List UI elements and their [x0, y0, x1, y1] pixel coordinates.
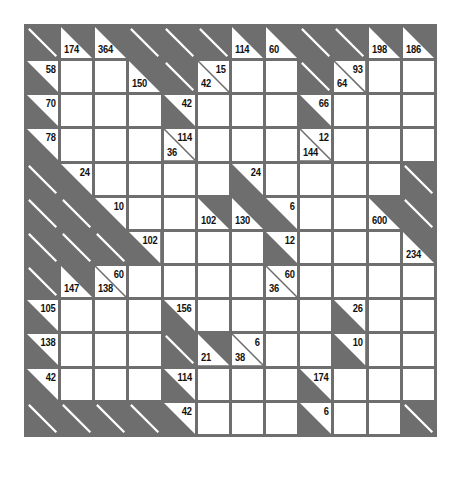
entry-cell[interactable]	[300, 164, 331, 195]
entry-cell[interactable]	[266, 61, 297, 92]
entry-cell[interactable]	[129, 129, 160, 160]
entry-cell[interactable]	[266, 300, 297, 331]
entry-cell[interactable]	[198, 129, 229, 160]
entry-cell[interactable]	[232, 369, 263, 400]
entry-cell[interactable]	[198, 266, 229, 297]
entry-cell[interactable]	[266, 164, 297, 195]
clue-cell: 156	[164, 300, 195, 331]
entry-cell[interactable]	[129, 198, 160, 229]
entry-cell[interactable]	[198, 164, 229, 195]
entry-cell[interactable]	[129, 266, 160, 297]
entry-cell[interactable]	[129, 95, 160, 126]
clue-cell: 60138	[95, 266, 126, 297]
entry-cell[interactable]	[300, 334, 331, 365]
entry-cell[interactable]	[266, 369, 297, 400]
entry-cell[interactable]	[334, 232, 365, 263]
entry-cell[interactable]	[369, 232, 400, 263]
clue-cell: 42	[164, 403, 195, 434]
entry-cell[interactable]	[369, 164, 400, 195]
entry-cell[interactable]	[334, 95, 365, 126]
entry-cell[interactable]	[232, 61, 263, 92]
entry-cell[interactable]	[300, 300, 331, 331]
clue-cell: 130	[232, 198, 263, 229]
entry-cell[interactable]	[95, 95, 126, 126]
entry-cell[interactable]	[61, 95, 92, 126]
entry-cell[interactable]	[300, 266, 331, 297]
entry-cell[interactable]	[129, 300, 160, 331]
diagonal-stripe-icon	[27, 232, 58, 263]
entry-cell[interactable]	[61, 369, 92, 400]
entry-cell[interactable]	[334, 403, 365, 434]
entry-cell[interactable]	[369, 129, 400, 160]
entry-cell[interactable]	[334, 198, 365, 229]
entry-cell[interactable]	[369, 403, 400, 434]
entry-cell[interactable]	[334, 129, 365, 160]
entry-cell[interactable]	[129, 164, 160, 195]
entry-cell[interactable]	[232, 266, 263, 297]
clue-cell: 174	[300, 369, 331, 400]
entry-cell[interactable]	[61, 334, 92, 365]
entry-cell[interactable]	[266, 129, 297, 160]
across-clue-sum: 6	[289, 201, 294, 212]
entry-cell[interactable]	[369, 95, 400, 126]
entry-cell[interactable]	[164, 266, 195, 297]
entry-cell[interactable]	[403, 61, 434, 92]
entry-cell[interactable]	[369, 266, 400, 297]
entry-cell[interactable]	[334, 266, 365, 297]
across-clue-sum: 10	[353, 337, 363, 348]
entry-cell[interactable]	[403, 300, 434, 331]
entry-cell[interactable]	[129, 334, 160, 365]
entry-cell[interactable]	[95, 334, 126, 365]
clue-cell: 60	[266, 27, 297, 58]
entry-cell[interactable]	[369, 300, 400, 331]
entry-cell[interactable]	[232, 95, 263, 126]
entry-cell[interactable]	[369, 61, 400, 92]
entry-cell[interactable]	[232, 300, 263, 331]
entry-cell[interactable]	[403, 95, 434, 126]
entry-cell[interactable]	[95, 300, 126, 331]
blocked-cell	[403, 198, 434, 229]
entry-cell[interactable]	[266, 95, 297, 126]
entry-cell[interactable]	[95, 369, 126, 400]
entry-cell[interactable]	[369, 369, 400, 400]
entry-cell[interactable]	[61, 61, 92, 92]
entry-cell[interactable]	[266, 403, 297, 434]
down-clue-sum: 21	[201, 352, 211, 363]
clue-cell: 174	[61, 27, 92, 58]
entry-cell[interactable]	[300, 198, 331, 229]
entry-cell[interactable]	[129, 369, 160, 400]
entry-cell[interactable]	[198, 232, 229, 263]
entry-cell[interactable]	[61, 300, 92, 331]
blocked-cell	[27, 27, 58, 58]
blocked-cell	[27, 198, 58, 229]
entry-cell[interactable]	[198, 369, 229, 400]
entry-cell[interactable]	[403, 129, 434, 160]
across-clue-sum: 102	[143, 235, 158, 246]
entry-cell[interactable]	[164, 198, 195, 229]
entry-cell[interactable]	[198, 95, 229, 126]
entry-cell[interactable]	[232, 129, 263, 160]
entry-cell[interactable]	[369, 334, 400, 365]
entry-cell[interactable]	[334, 164, 365, 195]
entry-cell[interactable]	[95, 129, 126, 160]
entry-cell[interactable]	[95, 164, 126, 195]
entry-cell[interactable]	[403, 266, 434, 297]
entry-cell[interactable]	[403, 334, 434, 365]
across-clue-sum: 93	[353, 64, 363, 75]
entry-cell[interactable]	[266, 334, 297, 365]
entry-cell[interactable]	[403, 369, 434, 400]
entry-cell[interactable]	[95, 61, 126, 92]
diagonal-stripe-icon	[95, 232, 126, 263]
entry-cell[interactable]	[232, 403, 263, 434]
entry-cell[interactable]	[300, 232, 331, 263]
entry-cell[interactable]	[334, 369, 365, 400]
clue-cell: 114	[232, 27, 263, 58]
entry-cell[interactable]	[198, 300, 229, 331]
entry-cell[interactable]	[61, 129, 92, 160]
entry-cell[interactable]	[164, 164, 195, 195]
diagonal-stripe-icon	[27, 403, 58, 434]
entry-cell[interactable]	[164, 232, 195, 263]
entry-cell[interactable]	[232, 232, 263, 263]
entry-cell[interactable]	[198, 403, 229, 434]
across-clue-sum: 42	[182, 406, 192, 417]
